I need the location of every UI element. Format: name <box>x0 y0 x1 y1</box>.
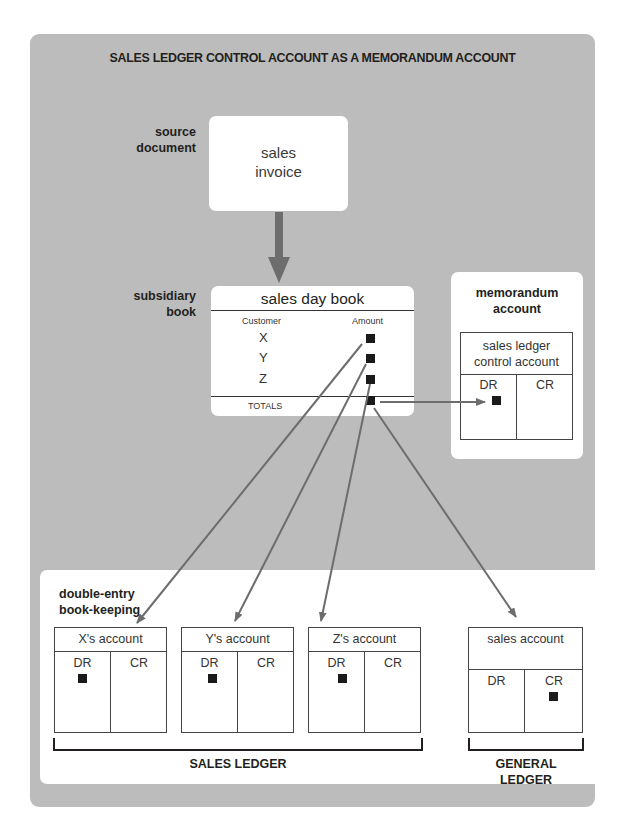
x-account: X's account DR CR <box>54 627 167 733</box>
account-title: sales account <box>469 628 582 670</box>
label-double-entry: double-entry book-keeping <box>59 586 140 618</box>
amount-marker <box>366 354 375 363</box>
label-line: source <box>120 124 196 140</box>
general-ledger-bracket <box>468 738 584 751</box>
label-line: account <box>451 301 583 317</box>
account-title: Z's account <box>309 628 420 652</box>
amount-marker <box>366 375 375 384</box>
dr-label: DR <box>309 656 364 670</box>
y-account: Y's account DR CR <box>181 627 294 733</box>
cr-label: CR <box>238 656 294 670</box>
label-subsidiary-book: subsidiary book <box>110 288 196 320</box>
row-customer: X <box>259 330 268 345</box>
invoice-line: invoice <box>209 162 348 181</box>
sales-account: sales account DR CR <box>468 627 583 733</box>
sales-ledger-label: SALES LEDGER <box>53 756 423 772</box>
dr-label: DR <box>55 656 110 670</box>
sales-invoice-box: sales invoice <box>209 116 348 211</box>
invoice-line: sales <box>209 143 348 162</box>
label-line: book <box>110 304 196 320</box>
col-customer: Customer <box>242 316 281 326</box>
label-source-document: source document <box>120 124 196 156</box>
account-title: X's account <box>55 628 166 652</box>
title-line: sales ledger <box>461 338 572 354</box>
control-account-title: sales ledger control account <box>461 333 572 375</box>
cr-label: CR <box>111 656 167 670</box>
control-account-t: sales ledger control account DR CR <box>460 332 573 440</box>
general-ledger-label: GENERAL LEDGER <box>468 756 584 788</box>
divider <box>211 310 414 311</box>
memorandum-account-box: memorandum account sales ledger control … <box>451 272 583 459</box>
label-line: GENERAL <box>468 756 584 772</box>
row-customer: Y <box>259 350 268 365</box>
amount-marker <box>366 334 375 343</box>
cr-label: CR <box>525 674 583 688</box>
label-line: LEDGER <box>468 772 584 788</box>
title-line: control account <box>461 354 572 370</box>
sales-ledger-bracket <box>53 738 423 751</box>
dr-label: DR <box>461 378 516 392</box>
label-line: book-keeping <box>59 602 140 618</box>
memorandum-title: memorandum account <box>451 285 583 317</box>
label-line: double-entry <box>59 586 140 602</box>
diagram-title: SALES LEDGER CONTROL ACCOUNT AS A MEMORA… <box>25 50 600 65</box>
dr-entry-marker <box>492 396 501 405</box>
row-customer: Z <box>259 371 267 386</box>
label-line: subsidiary <box>110 288 196 304</box>
dr-entry-marker <box>208 674 217 683</box>
col-amount: Amount <box>352 316 383 326</box>
cr-label: CR <box>365 656 421 670</box>
sales-day-book: sales day book Customer Amount X Y Z TOT… <box>211 286 414 416</box>
account-title: Y's account <box>182 628 293 652</box>
totals-marker <box>366 396 375 405</box>
label-line: memorandum <box>451 285 583 301</box>
totals-label: TOTALS <box>248 401 282 411</box>
dr-entry-marker <box>78 674 87 683</box>
cr-label: CR <box>517 378 573 392</box>
dr-label: DR <box>182 656 237 670</box>
label-line: document <box>120 140 196 156</box>
day-book-title: sales day book <box>211 290 414 308</box>
dr-entry-marker <box>338 674 347 683</box>
dr-label: DR <box>469 674 524 688</box>
divider <box>211 396 414 397</box>
z-account: Z's account DR CR <box>308 627 421 733</box>
cr-entry-marker <box>549 692 558 701</box>
